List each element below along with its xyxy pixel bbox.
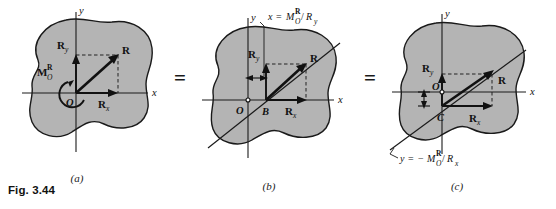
figure-3-44: x y R R y R x M O R	[0, 0, 556, 209]
ry-sub-a: y	[64, 45, 69, 54]
equation-num-c: M	[426, 153, 436, 164]
equation-var-b: x	[267, 11, 273, 22]
origin-label-b: O	[236, 105, 244, 116]
equation-minus-c: −	[418, 153, 424, 164]
equation-den-b: R	[305, 11, 312, 22]
equation-den-sub-c: x	[454, 159, 459, 168]
panel-label-c: (c)	[437, 180, 477, 192]
panel-b: x y x =	[188, 0, 368, 175]
x-axis-label-a: x	[151, 87, 157, 98]
rx-sub-c: x	[476, 118, 481, 127]
y-axis-label-a: y	[78, 5, 84, 16]
resultant-label-c: R	[498, 74, 507, 86]
point-b-label: B	[261, 106, 269, 117]
equals-sign-1: =	[174, 66, 186, 91]
resultant-label-b: R	[310, 52, 319, 64]
panel-label-b: (b)	[249, 180, 289, 192]
resultant-label-a: R	[122, 44, 131, 56]
x-axis-label-b: x	[337, 94, 343, 105]
rx-sub-b: x	[292, 111, 297, 120]
rigid-body-outline-b	[211, 26, 336, 143]
origin-point-c	[440, 90, 444, 94]
moment-sup-a: R	[47, 63, 53, 72]
panel-a: x y R R y R x M O R	[0, 0, 180, 175]
x-axis-label-c: x	[529, 86, 535, 97]
y-axis-label-b: y	[250, 12, 256, 23]
equation-slash-b: /	[301, 11, 304, 22]
equation-equals-b: =	[276, 11, 282, 22]
y-axis-label-c: y	[444, 8, 450, 19]
equation-num-b: M	[285, 11, 295, 22]
moment-sub-a: O	[47, 73, 53, 82]
equation-slash-c: /	[442, 153, 445, 164]
origin-point-b	[246, 98, 250, 102]
origin-label-a: O	[66, 97, 74, 108]
ry-sub-b: y	[255, 54, 260, 63]
equation-equals-c: =	[408, 153, 414, 164]
panel-label-a: (a)	[57, 172, 97, 184]
ry-sub-c: y	[429, 68, 434, 77]
panel-c: x y y	[376, 0, 556, 175]
origin-label-c: O	[432, 81, 440, 92]
equals-sign-2: =	[364, 66, 376, 91]
equation-den-sub-b: y	[313, 17, 318, 26]
equation-var-c: y	[399, 153, 405, 164]
equation-den-c: R	[446, 153, 453, 164]
figure-caption: Fig. 3.44	[8, 184, 55, 196]
point-c-label: C	[437, 112, 445, 123]
rx-sub-a: x	[105, 104, 110, 113]
